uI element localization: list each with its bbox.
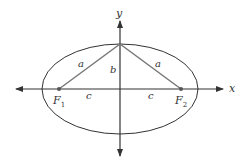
label-a-left: a <box>78 58 84 69</box>
x-axis-label: x <box>229 82 236 95</box>
focus-label-1: F1 <box>52 94 65 109</box>
label-c-left: c <box>86 90 92 101</box>
focus-point-1 <box>57 87 61 91</box>
label-c-right: c <box>148 90 154 101</box>
diagram-svg: y x a a b c c F1 F2 <box>0 0 248 167</box>
label-a-right: a <box>155 58 161 69</box>
focus-label-1-subscript: 1 <box>61 101 65 109</box>
segment-a-right <box>120 44 181 89</box>
label-b: b <box>110 64 116 75</box>
focus-label-2-main: F <box>174 94 183 107</box>
focus-point-2 <box>179 87 183 91</box>
ellipse-diagram: y x a a b c c F1 F2 <box>0 0 248 167</box>
y-axis-label: y <box>115 7 123 20</box>
focus-label-2-subscript: 2 <box>183 101 187 109</box>
focus-label-2: F2 <box>174 94 187 109</box>
focus-label-1-main: F <box>52 94 61 107</box>
